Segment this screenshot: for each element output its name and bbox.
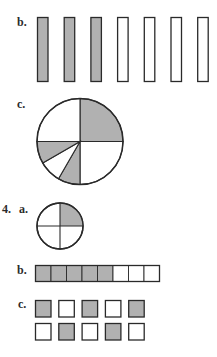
shaded-cell	[36, 266, 52, 282]
shaded-square	[82, 301, 98, 318]
shaded-cell	[67, 266, 83, 282]
unshaded-bar	[144, 18, 155, 82]
unshaded-square	[129, 324, 145, 341]
fraction-circle-4a	[37, 203, 83, 249]
unshaded-cell	[129, 266, 145, 282]
shaded-square	[129, 301, 145, 318]
shaded-bar	[38, 18, 49, 82]
unshaded-bar	[171, 18, 182, 82]
shaded-square	[36, 301, 52, 318]
shaded-square	[105, 324, 121, 341]
shaded-bar	[91, 18, 102, 82]
unshaded-square	[105, 301, 121, 318]
shaded-cell	[98, 266, 114, 282]
unshaded-cell	[144, 266, 160, 282]
fraction-squares-4c	[36, 301, 145, 341]
shaded-cell	[82, 266, 98, 282]
shaded-square	[59, 324, 75, 341]
unshaded-bar	[118, 18, 129, 82]
unshaded-bar	[198, 18, 209, 82]
unshaded-cell	[113, 266, 129, 282]
unshaded-square	[82, 324, 98, 341]
unshaded-square	[59, 301, 75, 318]
fraction-bars-3b	[38, 18, 209, 82]
fraction-strip-4b	[36, 266, 160, 282]
figures-canvas	[0, 0, 217, 357]
shaded-bar	[64, 18, 75, 82]
unshaded-square	[36, 324, 52, 341]
shaded-cell	[51, 266, 67, 282]
fraction-pie-3c	[37, 98, 123, 184]
